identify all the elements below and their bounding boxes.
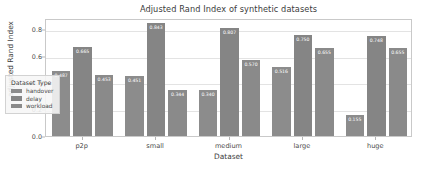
bar-value-label: 0.655 — [318, 50, 331, 55]
x-tick-label: large — [294, 142, 311, 150]
bar[interactable]: 0.344 — [168, 90, 187, 136]
bar[interactable]: 0.748 — [367, 36, 386, 136]
x-tick-label: p2p — [75, 142, 88, 150]
bar-value-label: 0.750 — [296, 37, 309, 42]
x-tick-label: medium — [215, 142, 242, 150]
legend-entry[interactable]: delay — [11, 96, 54, 102]
legend-swatch-icon — [11, 89, 22, 94]
y-tick-label: 0.8 — [20, 26, 42, 34]
bar-value-label: 0.655 — [391, 50, 404, 55]
bar-value-label: 0.453 — [98, 77, 111, 82]
chart-title: Adjusted Rand Index of synthetic dataset… — [45, 4, 412, 14]
bar-value-label: 0.451 — [128, 78, 141, 83]
legend-label: workload — [26, 103, 52, 109]
bar-value-label: 0.748 — [370, 38, 383, 43]
bar-value-label: 0.340 — [201, 92, 214, 97]
bar[interactable]: 0.453 — [95, 75, 114, 136]
bar[interactable]: 0.570 — [242, 60, 261, 136]
legend-swatch-icon — [11, 104, 22, 109]
bar[interactable]: 0.655 — [389, 48, 408, 136]
bar-value-label: 0.155 — [348, 117, 361, 122]
plot-area: 0.4870.6650.4530.4510.8430.3440.3400.807… — [45, 19, 412, 137]
bar[interactable]: 0.516 — [272, 67, 291, 136]
legend-entries: handoverdelayworkload — [11, 88, 54, 109]
y-tick-label: 0.0 — [20, 133, 42, 141]
bar-value-label: 0.665 — [76, 49, 89, 54]
x-tick-mark — [375, 137, 376, 140]
bar[interactable]: 0.807 — [220, 28, 239, 136]
bar-value-label: 0.516 — [275, 69, 288, 74]
bar[interactable]: 0.340 — [199, 90, 218, 136]
y-tick-label: 0.6 — [20, 53, 42, 61]
bar[interactable]: 0.843 — [147, 23, 166, 136]
x-tick-mark — [82, 137, 83, 140]
legend-label: delay — [26, 96, 42, 102]
bar-value-label: 0.807 — [223, 30, 236, 35]
bar-value-label: 0.843 — [150, 25, 163, 30]
bar-value-label: 0.344 — [171, 92, 184, 97]
legend-entry[interactable]: handover — [11, 88, 54, 94]
bar[interactable]: 0.750 — [294, 35, 313, 136]
x-tick-label: small — [146, 142, 164, 150]
legend-label: handover — [26, 88, 54, 94]
legend-swatch-icon — [11, 96, 22, 101]
legend: Dataset Type handoverdelayworkload — [5, 75, 60, 114]
bar[interactable]: 0.451 — [125, 76, 144, 136]
bar-group: 0.4510.8430.344 — [125, 20, 187, 136]
bar[interactable]: 0.155 — [346, 115, 365, 136]
legend-entry[interactable]: workload — [11, 103, 54, 109]
chart-figure: Adjusted Rand Index of synthetic dataset… — [0, 0, 433, 172]
x-tick-mark — [302, 137, 303, 140]
bar-group: 0.4870.6650.453 — [52, 20, 114, 136]
bar[interactable]: 0.665 — [73, 47, 92, 136]
bar-value-label: 0.570 — [244, 62, 257, 67]
bars-layer: 0.4870.6650.4530.4510.8430.3440.3400.807… — [46, 20, 411, 136]
bar-group: 0.1550.7480.655 — [346, 20, 408, 136]
bar-group: 0.3400.8070.570 — [199, 20, 261, 136]
x-tick-mark — [229, 137, 230, 140]
x-axis-label: Dataset — [45, 152, 412, 161]
x-tick-label: huge — [367, 142, 384, 150]
bar[interactable]: 0.655 — [315, 48, 334, 136]
bar-group: 0.5160.7500.655 — [272, 20, 334, 136]
x-tick-mark — [155, 137, 156, 140]
legend-title: Dataset Type — [11, 79, 54, 86]
